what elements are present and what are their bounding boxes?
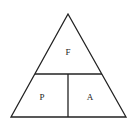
label-top: F xyxy=(65,47,70,57)
formula-triangle xyxy=(0,0,135,124)
label-bottom-left: P xyxy=(39,92,44,102)
label-bottom-right: A xyxy=(87,92,94,102)
